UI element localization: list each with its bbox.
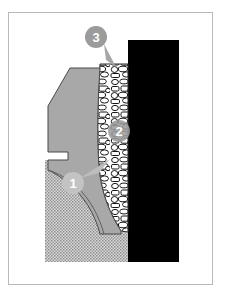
figure-canvas: 3 2 1 [0, 0, 225, 298]
callout-1-label: 1 [69, 176, 76, 191]
callout-3[interactable]: 3 [85, 26, 116, 67]
figure-root: 3 2 1 Retaining wall body Foundation soi… [0, 0, 225, 298]
callout-2-label: 2 [115, 124, 122, 139]
callout-2[interactable]: 2 [108, 120, 130, 142]
region-retained-fill [128, 40, 179, 262]
callout-3-label: 3 [92, 30, 99, 45]
